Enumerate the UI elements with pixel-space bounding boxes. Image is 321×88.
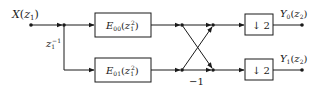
output-y1-label: Y1(z2) [280, 53, 307, 65]
butterfly-cross-down [182, 25, 212, 68]
delay-label: z1−1 [45, 37, 61, 50]
input-label: X(z1) [11, 8, 39, 22]
output-bottom-node [300, 68, 304, 72]
delay-branch-line [64, 25, 94, 70]
output-y0-label: Y0(z2) [280, 8, 307, 20]
filter-e01-label: E01(z12) [105, 64, 139, 77]
downsampler-bottom-label: ↓ 2 [252, 65, 270, 76]
filter-e00-label: E00(z12) [105, 19, 139, 32]
butterfly-cross-up [182, 27, 212, 70]
downsampler-top-label: ↓ 2 [252, 20, 270, 31]
output-top-node [300, 23, 304, 27]
filter-bank-diagram: X(z1) z1−1 E00(z12) E01(z12) −1 ↓ 2 ↓ 2 [0, 0, 321, 88]
butterfly-gain-label: −1 [189, 76, 204, 87]
